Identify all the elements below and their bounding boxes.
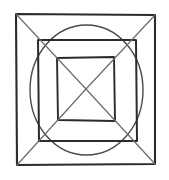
figure-canvas xyxy=(0,0,169,180)
geometric-sketch xyxy=(0,0,169,180)
diagonal-top-left-line xyxy=(16,14,86,89)
diagonal-bottom-right-line xyxy=(86,89,155,164)
